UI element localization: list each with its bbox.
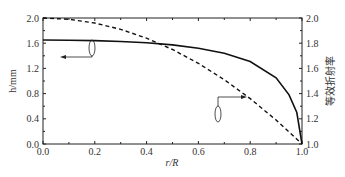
data-curves	[43, 18, 302, 144]
curve-marker-ellipse-right	[215, 106, 221, 122]
curve-marker-ellipse-left	[89, 40, 95, 56]
axis-ticks: 0.00.20.40.60.81.00.00.40.81.21.62.01.01…	[27, 13, 319, 158]
y-right-tick-label: 1.6	[306, 63, 319, 74]
plot-frame	[43, 18, 302, 144]
x-axis-label: r/R	[166, 157, 179, 168]
y-right-tick-label: 1.8	[306, 38, 319, 49]
arrow-left-icon	[60, 55, 66, 59]
y-right-tick-label: 1.2	[306, 113, 319, 124]
plot-border	[43, 18, 302, 144]
y-right-tick-label: 1.4	[306, 88, 319, 99]
x-tick-label: 0.2	[89, 146, 102, 157]
y-right-tick-label: 1.0	[306, 139, 319, 150]
arrow-line-right	[218, 97, 242, 106]
refractive-index-curve	[43, 18, 302, 144]
y-left-tick-label: 0.8	[27, 88, 40, 99]
y-right-tick-label: 2.0	[306, 13, 319, 24]
y-axis-left-label: h/mm	[7, 69, 18, 93]
x-tick-label: 0.8	[244, 146, 257, 157]
y-left-tick-label: 2.0	[27, 13, 40, 24]
arrow-right-icon	[241, 95, 247, 99]
y-left-tick-label: 1.6	[27, 38, 40, 49]
arrow-line-left	[64, 56, 92, 57]
thickness-curve	[43, 40, 302, 144]
chart: 0.00.20.40.60.81.00.00.40.81.21.62.01.01…	[0, 0, 345, 177]
x-tick-label: 0.6	[192, 146, 205, 157]
y-left-tick-label: 0.4	[27, 113, 40, 124]
y-left-tick-label: 1.2	[27, 63, 40, 74]
y-axis-right-label: 等效折射率	[324, 56, 336, 106]
x-tick-label: 0.4	[140, 146, 153, 157]
y-left-tick-label: 0.0	[27, 139, 40, 150]
